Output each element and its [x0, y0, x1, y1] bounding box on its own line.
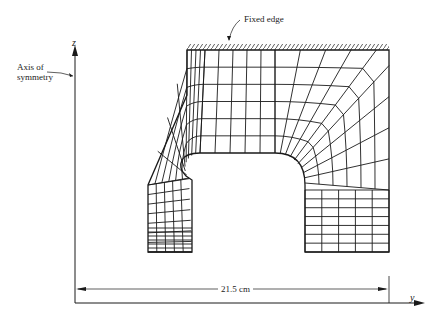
y-axis-arrow-icon: [414, 300, 425, 306]
finite-element-mesh-diagram: [0, 0, 427, 317]
z-axis: [72, 45, 78, 303]
y-axis: [75, 300, 425, 306]
dimension-arrow-right-icon: [378, 287, 388, 291]
mesh: [148, 50, 389, 252]
axis-of-symmetry-label: Axis of symmetry: [17, 62, 53, 82]
fixed-edge-label: Fixed edge: [244, 14, 284, 24]
z-axis-label: z: [72, 37, 76, 48]
dimension-label: 21.5 cm: [221, 284, 250, 294]
axis-label-line1: Axis of: [17, 62, 53, 72]
axis-label-line2: symmetry: [17, 72, 53, 82]
y-axis-label: y: [410, 292, 414, 303]
dimension-arrow-left-icon: [76, 287, 86, 291]
fixed-edge-leader: [229, 20, 240, 40]
fixed-edge-hatch: [187, 44, 389, 50]
